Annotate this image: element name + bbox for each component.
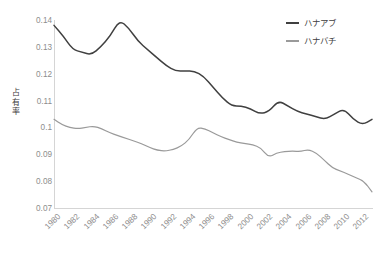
x-tick-label: 1988 [116,212,139,235]
x-tick-label: 2002 [251,212,274,235]
legend-dash-icon [286,40,299,41]
x-tick-label: 2012 [347,212,370,235]
legend-dash-icon [286,22,299,23]
line-chart: 占 有 率 0.140.130.120.110.10.090.080.07 19… [0,0,382,254]
x-tick-label: 2006 [290,212,313,235]
legend-label: ハナアブ [304,18,336,28]
x-tick-label: 1986 [97,212,120,235]
x-tick-label: 1980 [39,212,62,235]
x-tick-label: 1998 [212,212,235,235]
x-tick-label: 1992 [155,212,178,235]
x-tick-label: 2008 [309,212,332,235]
legend-item-hanabachi[interactable]: ハナバチ [286,32,336,50]
x-tick-label: 2010 [328,212,351,235]
x-tick-label: 1996 [193,212,216,235]
x-tick-label: 1984 [78,212,101,235]
x-tick-label: 1994 [174,212,197,235]
x-tick-label: 1990 [135,212,158,235]
legend-label: ハナバチ [304,36,336,46]
x-tick-label: 2004 [270,212,293,235]
x-tick-label: 2000 [232,212,255,235]
legend-item-hanaabu[interactable]: ハナアブ [286,14,336,32]
chart-legend: ハナアブ ハナバチ [286,14,336,50]
x-tick-label: 1982 [58,212,81,235]
